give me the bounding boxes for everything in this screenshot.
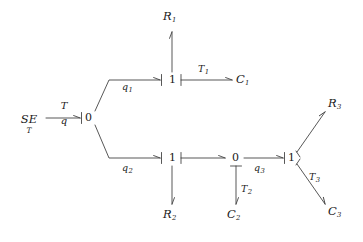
edge-label-T3: T3 <box>309 172 320 184</box>
edge-label-T1: T1 <box>198 64 209 76</box>
diagram-canvas: SE T T q 0 1 1 0 1 q1 q2 q3 T1 T2 T3 R1 … <box>0 0 363 242</box>
node-right: 1 <box>288 152 295 163</box>
source-symbol: SE <box>21 112 38 126</box>
edge-right-to-C3 <box>297 164 325 204</box>
terminal-C1: C1 <box>236 74 249 87</box>
root-edge-denominator: q <box>53 116 75 126</box>
edge-label-q2: q2 <box>122 163 133 175</box>
edge-label-T2: T2 <box>241 184 252 196</box>
terminal-R1: R1 <box>163 11 176 24</box>
node-root: 0 <box>85 112 92 123</box>
edge-right-bar <box>296 151 300 157</box>
terminal-C3: C3 <box>328 206 341 219</box>
edge-label-q1: q1 <box>122 82 133 94</box>
edge-label-q3: q3 <box>254 163 265 175</box>
edge-root-to-lower <box>95 125 160 158</box>
root-edge-numerator: T <box>53 101 75 111</box>
node-mid: 0 <box>232 152 239 163</box>
source-label: SE T <box>12 110 46 135</box>
edge-right-bar2 <box>296 159 300 165</box>
source-subscript: T <box>12 127 46 135</box>
terminal-C2: C2 <box>227 209 240 222</box>
root-edge-label: T q <box>53 101 75 126</box>
node-lower: 1 <box>169 152 176 163</box>
terminal-R3: R3 <box>328 98 341 111</box>
terminal-R2: R2 <box>163 209 176 222</box>
edge-right-to-R3 <box>297 112 325 152</box>
node-upper: 1 <box>169 74 176 85</box>
